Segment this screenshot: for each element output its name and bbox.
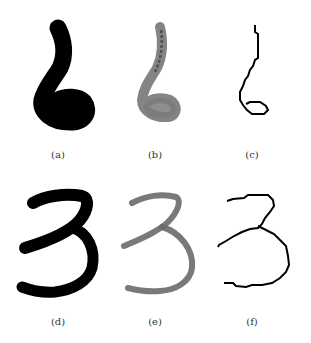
- panel-f-skeleton-three: [0, 0, 311, 343]
- panel-label-e: (e): [135, 316, 175, 327]
- panel-label-d: (d): [38, 316, 78, 327]
- panel-label-f: (f): [232, 316, 272, 327]
- panel-label-b: (b): [135, 149, 175, 160]
- skeleton-three-image: [0, 0, 311, 343]
- panel-label-a: (a): [38, 149, 78, 160]
- panel-label-c: (c): [232, 149, 272, 160]
